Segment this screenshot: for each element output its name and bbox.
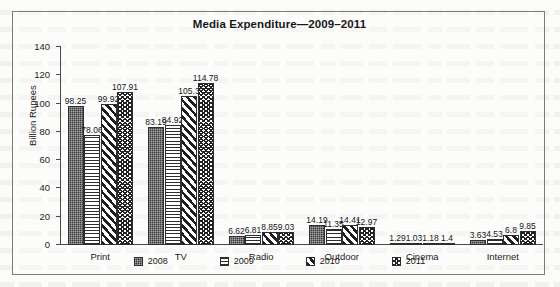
plot-area: 020406080100120140 98.2578.0699.92107.91… [60, 47, 543, 245]
bar-value-label: 9.03 [278, 222, 295, 232]
bar-print-2010[interactable]: 99.92 [101, 104, 117, 245]
bar-internet-2009[interactable]: 4.53 [487, 239, 503, 245]
legend-swatch-zigzag-wave [392, 257, 401, 266]
legend-label: 2011 [406, 256, 425, 266]
bar-cinema-2009[interactable]: 1.03 [406, 243, 422, 246]
bar-value-label: 78.06 [81, 125, 102, 135]
legend-label: 2008 [148, 256, 168, 266]
y-axis-tick-label: 0 [45, 239, 50, 250]
bar-value-label: 6.62 [228, 226, 245, 236]
bar-value-label: 99.92 [98, 94, 119, 104]
bar-print-2009[interactable]: 78.06 [84, 135, 100, 245]
y-axis-tick-label: 80 [39, 125, 50, 136]
bar-internet-2011[interactable]: 9.85 [520, 231, 536, 245]
bar-outdoor-2011[interactable]: 12.97 [359, 227, 375, 245]
legend-label: 2009 [234, 256, 254, 266]
bar-value-label: 1.03 [406, 233, 423, 243]
legend-item-2008[interactable]: 2008 [134, 256, 168, 266]
bar-value-label: 4.53 [486, 229, 503, 239]
bar-radio-2010[interactable]: 8.85 [262, 232, 278, 245]
y-axis-tick-label: 140 [34, 41, 50, 52]
bar-print-2011[interactable]: 107.91 [117, 92, 133, 245]
bar-group: 3.634.536.89.85Internet [463, 47, 544, 245]
legend-item-2010[interactable]: 2010 [306, 256, 340, 266]
bar-outdoor-2010[interactable]: 14.41 [342, 225, 358, 245]
bar-value-label: 6.8 [505, 225, 517, 235]
legend-swatch-dark-stipple [134, 257, 143, 266]
bar-tv-2009[interactable]: 84.92 [165, 125, 181, 245]
bar-value-label: 98.25 [65, 96, 86, 106]
bar-value-label: 1.29 [389, 233, 406, 243]
bar-group: 83.1984.92105.3114.78TV [141, 47, 222, 245]
bar-cinema-2011[interactable]: 1.4 [439, 243, 455, 246]
bar-value-label: 107.91 [112, 82, 138, 92]
bar-tv-2010[interactable]: 105.3 [181, 96, 197, 245]
y-axis-tick-label: 40 [39, 182, 50, 193]
bar-tv-2011[interactable]: 114.78 [198, 83, 214, 245]
bar-radio-2009[interactable]: 6.81 [245, 235, 261, 245]
bar-group: 6.626.818.859.03Radio [221, 47, 302, 245]
bar-cinema-2010[interactable]: 1.18 [423, 243, 439, 246]
bar-value-label: 84.92 [162, 115, 183, 125]
chart-title: Media Expenditure—2009–2011 [13, 18, 546, 30]
legend-label: 2010 [320, 256, 340, 266]
bar-outdoor-2009[interactable]: 11.35 [326, 229, 342, 245]
y-axis-tick-label: 100 [34, 97, 50, 108]
bar-internet-2010[interactable]: 6.8 [503, 235, 519, 245]
bar-value-label: 1.18 [422, 233, 439, 243]
y-axis-tick-label: 120 [34, 69, 50, 80]
legend-swatch-diagonal-stripes [306, 257, 315, 266]
bar-value-label: 105.3 [178, 86, 199, 96]
legend-item-2011[interactable]: 2011 [392, 256, 425, 266]
y-axis-label: Billion Rupees [27, 85, 38, 146]
bar-group: 98.2578.0699.92107.91Print [60, 47, 141, 245]
chart-screenshot: Media Expenditure—2009–2011 Billion Rupe… [0, 0, 560, 287]
legend-item-2009[interactable]: 2009 [220, 256, 254, 266]
legend-swatch-horizontal-lines [220, 257, 229, 266]
bar-cinema-2008[interactable]: 1.29 [390, 243, 406, 246]
bar-tv-2008[interactable]: 83.19 [148, 127, 164, 245]
bar-value-label: 12.97 [356, 217, 377, 227]
bar-value-label: 3.63 [470, 230, 487, 240]
chart-legend: 2008200920102011 [13, 256, 546, 266]
y-axis-tick-label: 20 [39, 210, 50, 221]
bar-value-label: 1.4 [441, 233, 453, 243]
bar-radio-2011[interactable]: 9.03 [278, 232, 294, 245]
chart-frame: Media Expenditure—2009–2011 Billion Rupe… [12, 11, 545, 275]
bar-value-label: 9.85 [519, 221, 536, 231]
bar-radio-2008[interactable]: 6.62 [229, 236, 245, 245]
y-axis-tick-label: 60 [39, 154, 50, 165]
bar-value-label: 114.78 [193, 73, 218, 83]
bar-value-label: 6.81 [245, 225, 262, 235]
bar-group: 14.1911.3514.4112.97Outdoor [302, 47, 383, 245]
bar-value-label: 8.85 [261, 222, 278, 232]
bar-group: 1.291.031.181.4Cinema [382, 47, 463, 245]
bar-internet-2008[interactable]: 3.63 [470, 240, 486, 245]
